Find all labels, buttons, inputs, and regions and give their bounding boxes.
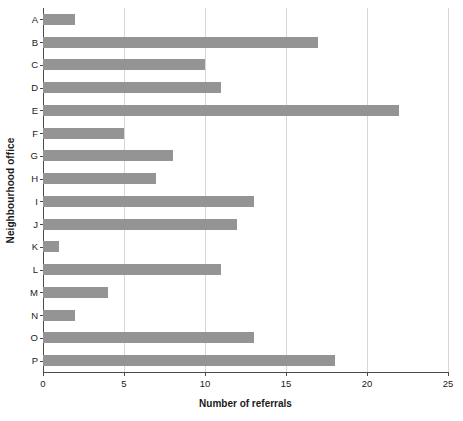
bar-O (43, 332, 254, 343)
bar-G (43, 150, 173, 161)
y-tick-label-A: A (32, 14, 38, 25)
bar-row (43, 219, 448, 230)
bar-B (43, 37, 318, 48)
x-tick-mark-25 (448, 373, 449, 376)
x-tick-mark-5 (124, 373, 125, 376)
y-tick-label-K: K (32, 241, 38, 252)
y-tick-label-O: O (31, 332, 38, 343)
bar-row (43, 128, 448, 139)
bar-K (43, 241, 59, 252)
bar-F (43, 128, 124, 139)
bar-N (43, 310, 75, 321)
x-tick-mark-15 (286, 373, 287, 376)
y-tick-label-P: P (32, 355, 38, 366)
y-tick-label-H: H (31, 173, 38, 184)
y-tick-label-I: I (35, 196, 38, 207)
x-tick-label-20: 20 (362, 378, 373, 389)
bar-D (43, 82, 221, 93)
y-tick-label-G: G (31, 150, 38, 161)
bar-J (43, 219, 237, 230)
x-tick-mark-0 (43, 373, 44, 376)
bar-A (43, 14, 75, 25)
bar-series (43, 8, 448, 372)
bar-row (43, 264, 448, 275)
bar-row (43, 105, 448, 116)
bar-C (43, 59, 205, 70)
bar-H (43, 173, 156, 184)
x-tick-label-0: 0 (40, 378, 45, 389)
x-tick-mark-10 (205, 373, 206, 376)
x-tick-label-10: 10 (200, 378, 211, 389)
bar-row (43, 287, 448, 298)
y-tick-label-N: N (31, 310, 38, 321)
bar-row (43, 82, 448, 93)
y-tick-label-C: C (31, 59, 38, 70)
y-axis-title: Neighbourhood office (0, 0, 22, 380)
x-axis-title: Number of referrals (43, 398, 448, 409)
bar-E (43, 105, 399, 116)
x-axis-tick-labels: 0510152025 (43, 373, 448, 393)
bar-row (43, 310, 448, 321)
bar-row (43, 355, 448, 366)
bar-row (43, 14, 448, 25)
bar-M (43, 287, 108, 298)
bar-row (43, 150, 448, 161)
y-tick-label-J: J (33, 219, 38, 230)
x-tick-label-15: 15 (281, 378, 292, 389)
bar-row (43, 332, 448, 343)
bar-chart: Neighbourhood office ABCDEFGHIJKLMNOP 05… (0, 0, 463, 421)
y-tick-label-L: L (33, 264, 38, 275)
y-axis-title-text: Neighbourhood office (6, 137, 17, 243)
bar-row (43, 196, 448, 207)
y-axis-tick-labels: ABCDEFGHIJKLMNOP (22, 8, 43, 372)
y-tick-label-M: M (30, 287, 38, 298)
bar-P (43, 355, 335, 366)
x-tick-label-25: 25 (443, 378, 454, 389)
plot-area (43, 8, 448, 372)
y-tick-label-E: E (32, 105, 38, 116)
bar-L (43, 264, 221, 275)
x-tick-mark-20 (367, 373, 368, 376)
y-tick-label-F: F (32, 128, 38, 139)
y-tick-label-B: B (32, 37, 38, 48)
gridline-25 (448, 8, 449, 372)
bar-row (43, 241, 448, 252)
x-tick-label-5: 5 (121, 378, 126, 389)
bar-I (43, 196, 254, 207)
y-tick-label-D: D (31, 82, 38, 93)
bar-row (43, 173, 448, 184)
bar-row (43, 37, 448, 48)
bar-row (43, 59, 448, 70)
